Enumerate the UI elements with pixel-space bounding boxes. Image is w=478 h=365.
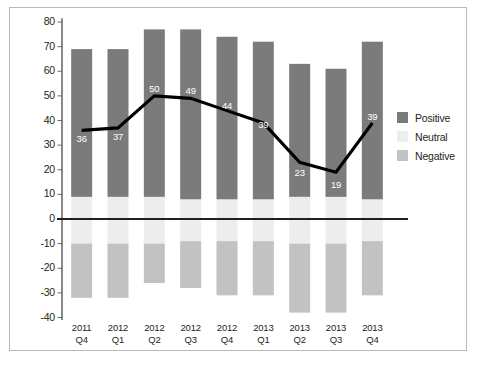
line-point-value-label: 23 — [289, 168, 311, 178]
legend-item-label: Neutral — [415, 131, 447, 143]
line-point-value-label: 39 — [361, 112, 383, 122]
bar-segment-negative — [144, 244, 165, 283]
bar-group — [180, 29, 201, 288]
legend-swatch-icon — [397, 131, 408, 142]
legend-item: Neutral — [397, 127, 473, 146]
legend-swatch-icon — [397, 150, 408, 161]
bar-group — [289, 64, 310, 313]
bar-group — [144, 29, 165, 283]
bar-segment-neutral — [362, 199, 383, 241]
bar-segment-negative — [71, 244, 92, 298]
bar-group — [326, 69, 347, 313]
line-point-value-label: 37 — [107, 132, 129, 142]
x-axis-category-label: 2013Q4 — [350, 322, 394, 345]
chart-plot-area — [0, 0, 478, 365]
bar-segment-positive — [144, 29, 165, 196]
y-axis-tick-label: 50 — [29, 90, 55, 101]
bar-segment-negative — [217, 241, 238, 295]
bar-segment-negative — [108, 244, 129, 298]
y-axis-tick-label: -10 — [29, 238, 55, 249]
legend-item: Positive — [397, 108, 473, 127]
legend-item-label: Positive — [415, 112, 450, 124]
chart-legend: PositiveNeutralNegative — [397, 108, 473, 165]
bar-group — [71, 49, 92, 298]
bar-segment-neutral — [326, 197, 347, 244]
bar-segment-neutral — [144, 197, 165, 244]
bar-segment-positive — [71, 49, 92, 197]
bar-segment-positive — [180, 29, 201, 199]
y-axis-tick-label: 30 — [29, 139, 55, 150]
bar-segment-positive — [326, 69, 347, 197]
legend-swatch-icon — [397, 112, 408, 123]
y-axis-tick-label: -40 — [29, 312, 55, 323]
bar-segment-neutral — [180, 199, 201, 241]
bar-segment-negative — [326, 244, 347, 313]
bar-group — [108, 49, 129, 298]
bar-group — [217, 37, 238, 296]
bar-segment-neutral — [289, 197, 310, 244]
y-axis-tick-label: 10 — [29, 188, 55, 199]
bar-segment-negative — [253, 241, 274, 295]
bar-segment-neutral — [217, 199, 238, 241]
category-year: 2013 — [350, 322, 394, 334]
line-point-value-label: 50 — [143, 84, 165, 94]
y-axis-tick-label: 20 — [29, 164, 55, 175]
bar-segment-negative — [289, 244, 310, 313]
bar-segment-neutral — [253, 199, 274, 241]
bar-segment-neutral — [108, 197, 129, 244]
legend-item-label: Negative — [415, 150, 455, 162]
y-axis-tick-label: -20 — [29, 262, 55, 273]
y-axis-tick-label: -30 — [29, 287, 55, 298]
bar-segment-negative — [362, 241, 383, 295]
bar-group — [362, 42, 383, 296]
bar-segment-positive — [217, 37, 238, 200]
y-axis-tick-label: 0 — [29, 213, 55, 224]
y-axis-tick-label: 60 — [29, 65, 55, 76]
y-axis-tick-label: 40 — [29, 115, 55, 126]
y-axis-tick-label: 80 — [29, 16, 55, 27]
y-axis-tick-label: 70 — [29, 41, 55, 52]
line-point-value-label: 49 — [180, 86, 202, 96]
line-point-value-label: 44 — [216, 101, 238, 111]
line-point-value-label: 19 — [325, 180, 347, 190]
line-point-value-label: 39 — [252, 120, 274, 130]
bar-group — [253, 42, 274, 296]
bar-segment-neutral — [71, 197, 92, 244]
line-point-value-label: 36 — [71, 134, 93, 144]
bar-segment-negative — [180, 241, 201, 288]
category-quarter: Q4 — [350, 334, 394, 346]
legend-item: Negative — [397, 146, 473, 165]
